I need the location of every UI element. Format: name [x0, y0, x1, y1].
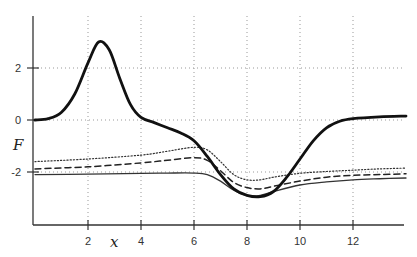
x-tick-label: 12	[347, 235, 359, 247]
x-tick-label: 8	[244, 235, 250, 247]
y-tick-label: 0	[15, 114, 21, 126]
x-axis-label: x	[110, 233, 119, 251]
x-tick-label: 6	[191, 235, 197, 247]
chart: 2468101220-2 x F	[0, 0, 417, 257]
y-tick-label: -2	[11, 166, 21, 178]
y-axis-label: F	[12, 136, 24, 154]
y-tick-label: 2	[15, 62, 21, 74]
x-tick-label: 2	[85, 235, 91, 247]
x-tick-label: 10	[294, 235, 306, 247]
tick-labels: 2468101220-2	[11, 62, 359, 247]
data-series	[35, 41, 406, 197]
x-tick-label: 4	[138, 235, 144, 247]
axes	[27, 16, 404, 230]
